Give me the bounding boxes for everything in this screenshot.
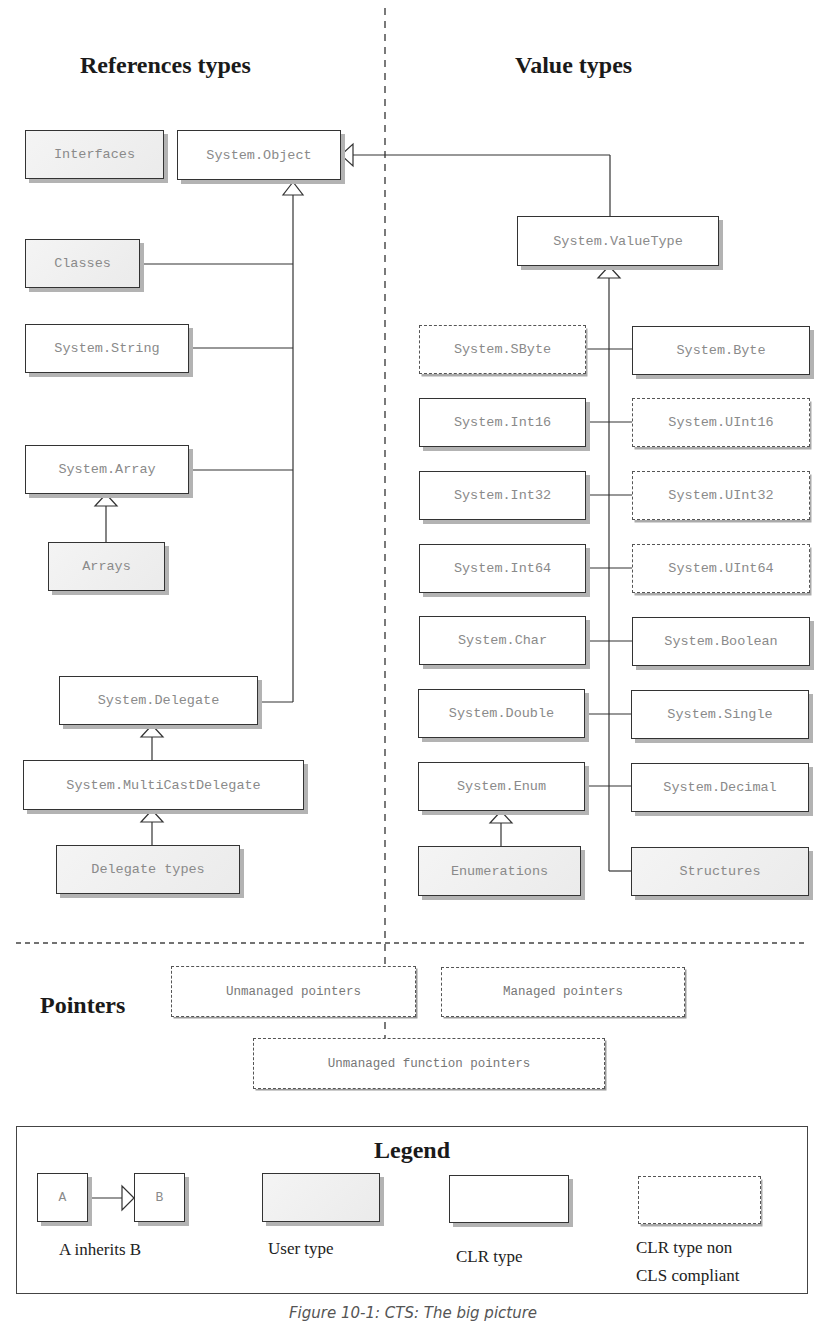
box-system-byte: System.Byte bbox=[632, 326, 810, 375]
legend-label-inherits: A inherits B bbox=[59, 1238, 141, 1262]
heading-pointers: Pointers bbox=[40, 992, 125, 1019]
inherit-arrow-icon bbox=[598, 266, 620, 278]
box-system-object: System.Object bbox=[177, 130, 341, 180]
box-system-boolean: System.Boolean bbox=[632, 617, 810, 666]
legend-label-user-type: User type bbox=[268, 1237, 334, 1261]
heading-value-types: Value types bbox=[515, 52, 632, 79]
box-managed-pointers: Managed pointers bbox=[441, 967, 685, 1017]
box-system-char: System.Char bbox=[419, 616, 586, 665]
legend-box-a: A bbox=[37, 1173, 88, 1222]
box-system-uint16: System.UInt16 bbox=[632, 398, 810, 447]
box-system-uint64: System.UInt64 bbox=[632, 544, 810, 593]
box-interfaces: Interfaces bbox=[25, 130, 164, 179]
legend-title: Legend bbox=[17, 1137, 807, 1164]
box-unmanaged-function-pointers: Unmanaged function pointers bbox=[253, 1038, 605, 1089]
box-system-int64: System.Int64 bbox=[419, 544, 586, 593]
legend-box-clr-type bbox=[449, 1175, 569, 1223]
legend-box-non-cls bbox=[638, 1176, 761, 1224]
inherit-arrow-icon bbox=[283, 182, 303, 195]
box-system-decimal: System.Decimal bbox=[631, 763, 809, 812]
box-system-enum: System.Enum bbox=[418, 762, 585, 811]
inherit-arrow-icon bbox=[490, 811, 512, 823]
box-system-valuetype: System.ValueType bbox=[517, 216, 719, 266]
inherit-arrow-icon bbox=[341, 144, 353, 166]
legend-label-non-cls-2: CLS compliant bbox=[636, 1264, 739, 1288]
box-arrays: Arrays bbox=[48, 542, 165, 591]
box-system-double: System.Double bbox=[418, 689, 585, 738]
inherit-arrow-icon bbox=[141, 725, 163, 737]
box-system-int16: System.Int16 bbox=[419, 398, 586, 447]
box-classes: Classes bbox=[25, 239, 140, 288]
inherit-arrow-icon bbox=[141, 810, 163, 822]
box-system-uint32: System.UInt32 bbox=[632, 471, 810, 520]
legend-label-clr-type: CLR type bbox=[456, 1245, 523, 1269]
box-unmanaged-pointers: Unmanaged pointers bbox=[171, 966, 416, 1017]
box-delegate-types: Delegate types bbox=[56, 845, 240, 894]
heading-reference-types: References types bbox=[80, 52, 251, 79]
box-enumerations: Enumerations bbox=[418, 846, 581, 896]
legend-box-user-type bbox=[262, 1173, 380, 1222]
box-system-sbyte: System.SByte bbox=[419, 325, 586, 374]
legend-box-b: B bbox=[134, 1173, 185, 1222]
box-structures: Structures bbox=[631, 847, 809, 896]
legend-label-non-cls-1: CLR type non bbox=[636, 1236, 732, 1260]
box-system-delegate: System.Delegate bbox=[59, 676, 258, 725]
inherit-arrow-icon bbox=[95, 494, 117, 506]
box-system-multicastdelegate: System.MultiCastDelegate bbox=[23, 760, 304, 810]
figure-caption: Figure 10-1: CTS: The big picture bbox=[0, 1304, 826, 1322]
box-system-string: System.String bbox=[25, 324, 189, 373]
box-system-single: System.Single bbox=[631, 690, 809, 739]
box-system-int32: System.Int32 bbox=[419, 471, 586, 520]
box-system-array: System.Array bbox=[25, 445, 189, 494]
